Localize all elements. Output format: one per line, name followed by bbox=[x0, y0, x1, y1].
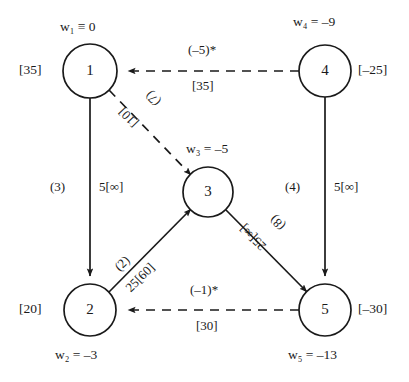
arc-5-to-2-flow: [30] bbox=[196, 319, 218, 332]
node-3-potential: w₃ = –5 bbox=[186, 142, 228, 156]
arc-4-to-1-flow: [35] bbox=[192, 79, 214, 92]
node-4-label: 4 bbox=[321, 62, 329, 78]
arc-4-to-1-cost: (–5)* bbox=[188, 43, 216, 56]
node-2-bracket: [20] bbox=[19, 302, 42, 316]
node-4-bracket: [–25] bbox=[358, 63, 387, 77]
arc-1-to-2-flow: 5[∞] bbox=[99, 180, 123, 193]
arc-1-to-2-cost: (3) bbox=[50, 180, 65, 193]
arc-2-to-3 bbox=[109, 209, 191, 292]
node-5-label: 5 bbox=[321, 301, 329, 317]
node-1-label: 1 bbox=[86, 62, 94, 78]
node-4-potential: w₄ = –9 bbox=[293, 15, 335, 29]
node-2-label: 2 bbox=[86, 301, 94, 317]
arc-5-to-2-cost: (–1)* bbox=[190, 283, 218, 296]
arc-4-to-5-cost: (4) bbox=[285, 180, 300, 193]
node-1-potential: w₁ ≡ 0 bbox=[60, 20, 96, 34]
node-2-potential: w₂ = –3 bbox=[55, 348, 97, 362]
node-3-label: 3 bbox=[204, 183, 212, 199]
arc-4-to-5-flow: 5[∞] bbox=[334, 180, 358, 193]
node-5-bracket: [–30] bbox=[358, 302, 387, 316]
node-5-potential: w₅ = –13 bbox=[288, 348, 337, 362]
node-1-bracket: [35] bbox=[19, 63, 42, 77]
